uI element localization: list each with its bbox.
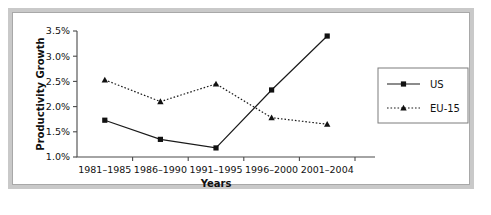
legend-box	[378, 68, 468, 123]
data-point-eu-15	[324, 121, 330, 127]
legend-marker-us	[401, 81, 406, 86]
data-point-eu-15	[213, 81, 219, 87]
line-chart: 1.0%1.5%2.0%2.5%3.0%3.5%1981–19851986–19…	[0, 0, 491, 215]
data-point-us	[325, 33, 330, 38]
data-point-us	[213, 145, 218, 150]
figure-container: 1.0%1.5%2.0%2.5%3.0%3.5%1981–19851986–19…	[0, 0, 491, 215]
y-axis-tick-label: 1.5%	[46, 126, 70, 137]
x-axis-tick-label: 1986–1990	[134, 164, 187, 175]
chart-plot-area: 1.0%1.5%2.0%2.5%3.0%3.5%1981–19851986–19…	[0, 0, 491, 215]
data-point-us	[269, 87, 274, 92]
x-axis-tick-label: 1981–1985	[78, 164, 131, 175]
data-point-eu-15	[102, 77, 108, 83]
x-axis-tick-label: 1996–2000	[245, 164, 298, 175]
data-point-us	[158, 137, 163, 142]
data-point-us	[102, 118, 107, 123]
y-axis-tick-label: 2.0%	[46, 101, 70, 112]
y-axis-tick-label: 2.5%	[46, 76, 70, 87]
legend-label-us: US	[430, 79, 444, 90]
data-point-eu-15	[268, 114, 274, 120]
series-line-us	[105, 36, 327, 148]
y-axis-tick-label: 3.0%	[46, 51, 70, 62]
x-axis-tick-label: 1991–1995	[189, 164, 242, 175]
y-axis-tick-label: 1.0%	[46, 151, 70, 162]
y-axis-title: Productivity Growth	[35, 37, 46, 150]
y-axis-tick-label: 3.5%	[46, 25, 70, 36]
series-line-eu-15	[105, 80, 327, 124]
figure-caption	[10, 196, 480, 212]
x-axis-title: Years	[200, 178, 232, 189]
x-axis-tick-label: 2001–2004	[301, 164, 354, 175]
legend-label-eu-15: EU-15	[430, 103, 460, 114]
